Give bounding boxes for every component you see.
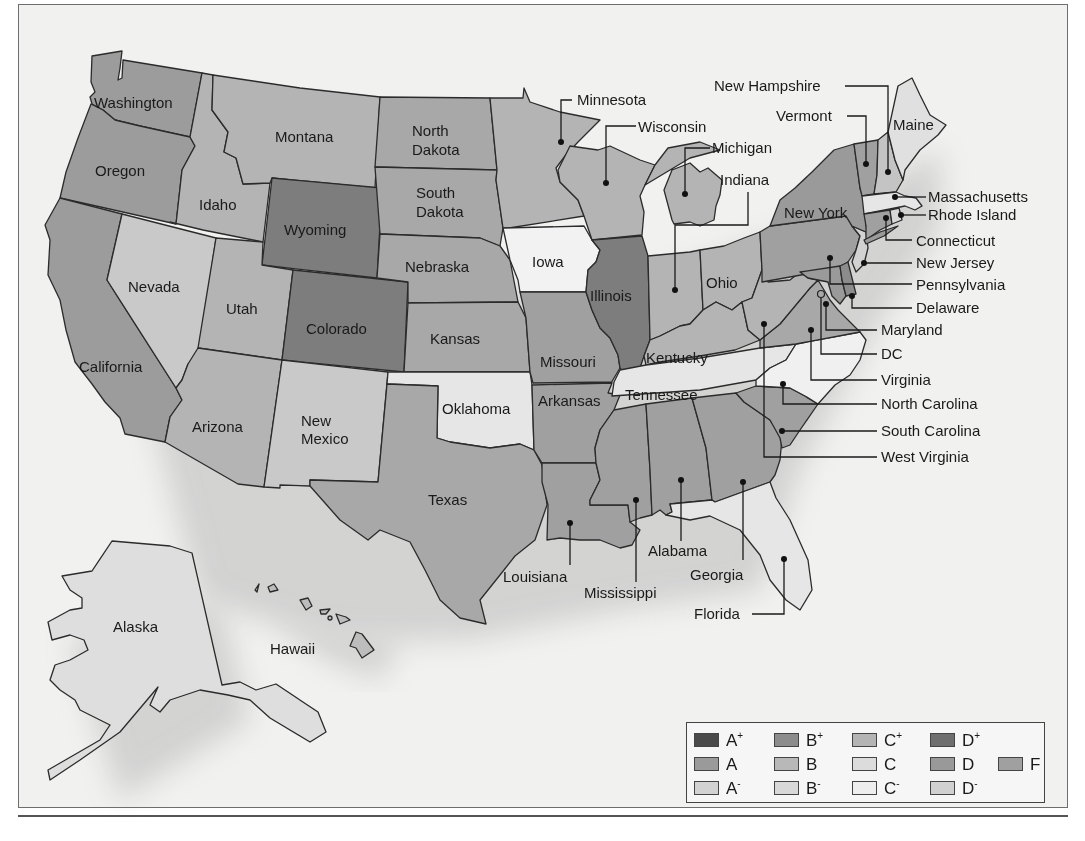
legend-swatch	[694, 733, 719, 747]
callout-louisiana: Louisiana	[503, 568, 568, 585]
legend-item-f: F	[998, 753, 1040, 775]
legend-swatch	[852, 757, 877, 771]
label-south-dakota-1: South	[416, 184, 455, 201]
callout-pennsylvania: Pennsylvania	[916, 276, 1006, 293]
state-michigan[interactable]	[645, 142, 722, 226]
label-colorado: Colorado	[306, 320, 367, 337]
us-states-grade-map: Washington Oregon California Idaho Nevad…	[0, 0, 1085, 841]
legend-item-b-minus: B-	[774, 777, 821, 799]
legend-swatch	[852, 781, 877, 795]
legend-item-d: D	[930, 753, 974, 775]
label-utah: Utah	[226, 300, 258, 317]
legend-swatch	[774, 781, 799, 795]
label-illinois: Illinois	[590, 287, 632, 304]
legend-swatch	[930, 781, 955, 795]
callout-minnesota: Minnesota	[577, 91, 647, 108]
label-tennessee: Tennessee	[625, 386, 698, 403]
legend-swatch	[774, 733, 799, 747]
legend-swatch	[998, 757, 1023, 771]
label-kansas: Kansas	[430, 330, 480, 347]
callout-virginia: Virginia	[881, 371, 931, 388]
callout-rhode-island: Rhode Island	[928, 206, 1016, 223]
callout-wisconsin: Wisconsin	[638, 118, 706, 135]
legend-item-d-plus: D+	[930, 729, 980, 751]
label-montana: Montana	[275, 128, 334, 145]
label-iowa: Iowa	[532, 253, 564, 270]
label-idaho: Idaho	[199, 196, 237, 213]
legend-item-b-plus: B+	[774, 729, 823, 751]
callout-south-carolina: South Carolina	[881, 422, 981, 439]
label-oklahoma: Oklahoma	[442, 400, 511, 417]
callout-west-virginia: West Virginia	[881, 448, 969, 465]
label-wyoming: Wyoming	[284, 221, 346, 238]
callout-new-jersey: New Jersey	[916, 254, 995, 271]
label-nebraska: Nebraska	[405, 258, 470, 275]
legend-swatch	[930, 733, 955, 747]
callout-maryland: Maryland	[881, 321, 943, 338]
label-missouri: Missouri	[540, 353, 596, 370]
callout-connecticut: Connecticut	[916, 232, 996, 249]
label-nevada: Nevada	[128, 278, 180, 295]
legend-swatch	[694, 757, 719, 771]
label-alaska: Alaska	[113, 618, 159, 635]
callout-delaware: Delaware	[916, 299, 979, 316]
label-washington: Washington	[94, 94, 173, 111]
callout-mississippi: Mississippi	[584, 584, 657, 601]
legend-item-c: C	[852, 753, 896, 775]
callout-indiana: Indiana	[720, 171, 770, 188]
callout-florida: Florida	[694, 605, 741, 622]
label-south-dakota-2: Dakota	[416, 203, 464, 220]
callout-georgia: Georgia	[690, 566, 744, 583]
legend-item-a: A	[694, 753, 737, 775]
label-hawaii: Hawaii	[270, 640, 315, 657]
grade-legend: A+ B+ C+ D+ A B C D F A- B- C	[686, 722, 1045, 803]
callout-massachusetts: Massachusetts	[928, 188, 1028, 205]
legend-swatch	[694, 781, 719, 795]
label-arizona: Arizona	[192, 418, 244, 435]
callout-vermont: Vermont	[776, 107, 833, 124]
label-new-mexico-2: Mexico	[301, 430, 349, 447]
label-new-york: New York	[784, 204, 848, 221]
label-arkansas: Arkansas	[538, 392, 601, 409]
legend-swatch	[774, 757, 799, 771]
bottom-rule	[18, 815, 1068, 817]
legend-swatch	[852, 733, 877, 747]
legend-swatch	[930, 757, 955, 771]
callout-alabama: Alabama	[648, 542, 708, 559]
label-new-mexico-1: New	[301, 412, 331, 429]
label-north-dakota-1: North	[412, 122, 449, 139]
legend-item-d-minus: D-	[930, 777, 978, 799]
callout-dc: DC	[881, 345, 903, 362]
label-maine: Maine	[893, 116, 934, 133]
legend-item-a-plus: A+	[694, 729, 743, 751]
label-ohio: Ohio	[706, 274, 738, 291]
legend-item-b: B	[774, 753, 817, 775]
label-north-dakota-2: Dakota	[412, 141, 460, 158]
callout-new-hampshire: New Hampshire	[714, 77, 821, 94]
callout-michigan: Michigan	[712, 139, 772, 156]
legend-item-a-minus: A-	[694, 777, 741, 799]
callout-north-carolina: North Carolina	[881, 395, 978, 412]
label-texas: Texas	[428, 491, 467, 508]
legend-item-c-plus: C+	[852, 729, 902, 751]
label-california: California	[79, 358, 143, 375]
legend-item-c-minus: C-	[852, 777, 900, 799]
label-oregon: Oregon	[95, 162, 145, 179]
label-kentucky: Kentucky	[646, 349, 708, 366]
